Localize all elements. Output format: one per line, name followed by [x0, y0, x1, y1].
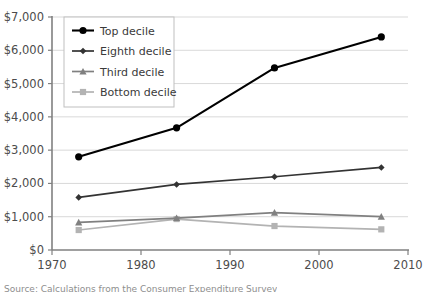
y-tick-label: $7,000 [4, 10, 44, 24]
y-axis: $0$1,000$2,000$3,000$4,000$5,000$6,000$7… [4, 10, 52, 257]
x-tick-label: 1980 [126, 258, 155, 272]
data-point-marker [79, 27, 86, 34]
data-point-marker [173, 181, 180, 188]
y-tick-label: $4,000 [4, 110, 44, 124]
y-tick-label: $6,000 [4, 43, 44, 57]
series-bottom-decile [76, 216, 385, 233]
data-point-marker [378, 226, 384, 232]
data-point-marker [271, 223, 277, 229]
legend: Top decileEighth decileThird decileBotto… [64, 17, 177, 107]
data-point-marker [271, 64, 278, 71]
data-point-marker [378, 164, 385, 171]
x-tick-label: 1990 [215, 258, 244, 272]
data-point-marker [75, 153, 82, 160]
data-point-marker [80, 89, 86, 95]
x-tick-label: 2000 [304, 258, 333, 272]
chart-canvas: $0$1,000$2,000$3,000$4,000$5,000$6,000$7… [0, 0, 426, 292]
y-tick-label: $0 [29, 243, 44, 257]
series-line [79, 213, 382, 223]
legend-item-label: Eighth decile [100, 45, 172, 58]
series-line [79, 167, 382, 197]
y-tick-label: $2,000 [4, 176, 44, 190]
source-note: Source: Calculations from the Consumer E… [4, 284, 277, 292]
series-eighth-decile [75, 164, 384, 201]
data-point-marker [76, 227, 82, 233]
y-tick-label: $1,000 [4, 210, 44, 224]
legend-item-label: Top decile [99, 25, 155, 38]
x-tick-label: 1970 [37, 258, 66, 272]
data-point-marker [75, 194, 82, 201]
data-point-marker [271, 173, 278, 180]
line-chart: $0$1,000$2,000$3,000$4,000$5,000$6,000$7… [0, 0, 426, 292]
legend-item-label: Third decile [99, 66, 164, 79]
y-tick-label: $5,000 [4, 77, 44, 91]
data-point-marker [173, 124, 180, 131]
data-point-marker [378, 33, 385, 40]
x-axis: 19701980199020002010 [37, 250, 422, 272]
y-tick-label: $3,000 [4, 143, 44, 157]
legend-item-label: Bottom decile [100, 86, 177, 99]
x-tick-label: 2010 [393, 258, 422, 272]
